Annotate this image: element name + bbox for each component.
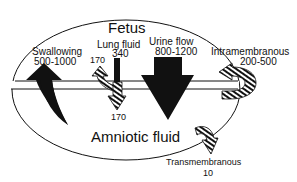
fetus-label: Fetus [108, 20, 146, 35]
transmembranous-arrow-icon [195, 126, 218, 154]
lung-fluid-bar-icon [114, 58, 120, 82]
lung-fluid-down-value: 170 [111, 113, 126, 122]
fluid-flow-diagram [0, 0, 297, 182]
lung-fluid-up-value: 170 [90, 56, 105, 65]
intramembranous-value: 200-500 [240, 57, 277, 67]
urine-flow-value: 800-1200 [155, 47, 197, 57]
swallowing-value: 500-1000 [34, 57, 76, 67]
amniotic-fluid-label: Amniotic fluid [91, 129, 180, 144]
lung-fluid-value: 340 [112, 49, 129, 59]
transmembranous-label: Transmembranous [166, 158, 241, 167]
transmembranous-value: 10 [203, 169, 213, 178]
